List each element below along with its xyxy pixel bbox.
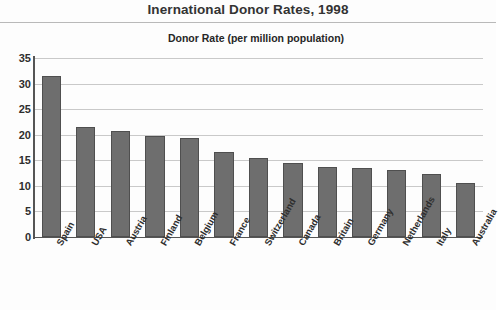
bar-germany xyxy=(352,168,371,237)
bar-netherlands xyxy=(387,170,406,237)
bar-britain xyxy=(318,167,337,237)
bar-switzerland xyxy=(249,158,268,237)
y-axis-tick-label: 20 xyxy=(5,129,31,141)
y-axis-tick-label: 35 xyxy=(5,52,31,64)
page-title: Inernational Donor Rates, 1998 xyxy=(0,2,496,17)
chart-subtitle: Donor Rate (per million population) xyxy=(28,32,484,44)
y-axis-tick-label: 30 xyxy=(5,78,31,90)
bar-austria xyxy=(111,131,130,237)
bar-spain xyxy=(42,76,61,237)
y-axis-tick-labels: 05101520253035 xyxy=(0,0,31,310)
y-axis-tick-label: 25 xyxy=(5,103,31,115)
bar-usa xyxy=(76,127,95,237)
y-axis-tick-label: 15 xyxy=(5,154,31,166)
bar-series xyxy=(34,58,483,237)
y-axis-tick-label: 5 xyxy=(5,205,31,217)
y-axis-tick-label: 10 xyxy=(5,180,31,192)
title-divider xyxy=(0,22,496,23)
x-axis-category-labels: SpainUSAAustriaFinlandBelgiumFranceSwitz… xyxy=(34,240,483,310)
bar-france xyxy=(214,152,233,237)
bar-belgium xyxy=(180,138,199,237)
y-axis-tick-label: 0 xyxy=(5,231,31,243)
bar-australia xyxy=(456,183,475,237)
bar-finland xyxy=(145,136,164,237)
